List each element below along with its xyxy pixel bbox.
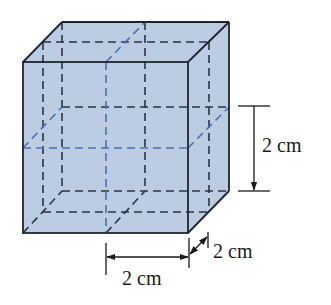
depth-dimension [190,232,208,254]
cube-diagram: 2 cm 2 cm 2 cm [0,0,331,305]
width-label: 2 cm [122,267,162,289]
height-label: 2 cm [262,134,302,156]
cube-fill [23,22,229,233]
depth-label: 2 cm [213,240,253,262]
